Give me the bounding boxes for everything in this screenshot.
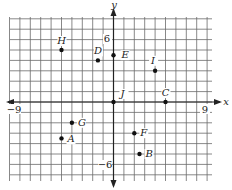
point-label: C <box>162 87 170 98</box>
tick-x-neg9: −9 <box>7 104 22 115</box>
point-dot-icon <box>132 131 136 135</box>
point-label: E <box>121 49 130 60</box>
point-label: H <box>56 35 66 46</box>
x-axis-arrow-right-icon <box>214 99 222 105</box>
point-i: I <box>149 55 158 73</box>
point-dot-icon <box>137 152 141 156</box>
point-label: D <box>93 45 102 56</box>
y-axis-label: y <box>110 0 117 10</box>
point-dot-icon <box>59 48 63 52</box>
point-dot-icon <box>111 53 115 57</box>
point-label: F <box>139 127 148 138</box>
point-dot-icon <box>96 58 100 62</box>
point-label: B <box>145 148 153 159</box>
point-label: G <box>78 117 86 128</box>
coordinate-plane: x y −9 9 6 −6 HDEIJCGAFB <box>0 0 232 190</box>
point-dot-icon <box>59 136 63 140</box>
point-dot-icon <box>163 100 167 104</box>
point-dot-icon <box>70 121 74 125</box>
tick-x-9: 9 <box>202 104 208 115</box>
point-dot-icon <box>153 69 157 73</box>
point-dot-icon <box>111 100 115 104</box>
x-axis-label: x <box>223 96 229 107</box>
point-label: J <box>119 88 126 99</box>
y-axis-arrow-down-icon <box>111 180 117 188</box>
tick-y-6: 6 <box>104 33 110 44</box>
point-label: A <box>67 133 75 144</box>
point-b: B <box>137 148 153 159</box>
tick-y-neg6: −6 <box>98 159 113 170</box>
